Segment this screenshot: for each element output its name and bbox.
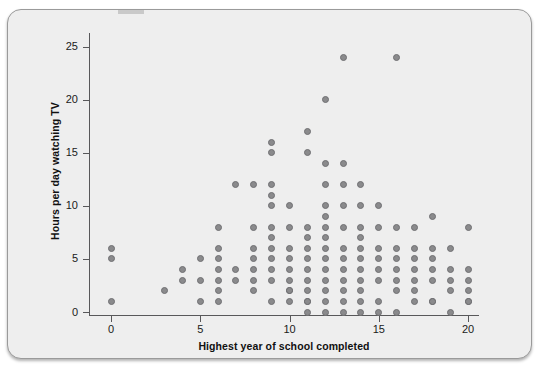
- data-point: [215, 298, 222, 305]
- data-point: [232, 277, 239, 284]
- data-point: [465, 277, 472, 284]
- data-point: [322, 96, 329, 103]
- data-point: [108, 255, 115, 262]
- data-point: [375, 245, 382, 252]
- data-point: [322, 202, 329, 209]
- data-point: [465, 287, 472, 294]
- y-tick-mark: [83, 312, 89, 313]
- data-point: [250, 277, 257, 284]
- data-point: [357, 287, 364, 294]
- data-point: [465, 298, 472, 305]
- x-tick-label: 0: [91, 324, 131, 335]
- data-point: [286, 255, 293, 262]
- data-point: [322, 181, 329, 188]
- data-point: [268, 224, 275, 231]
- data-point: [340, 287, 347, 294]
- data-point: [447, 277, 454, 284]
- data-point: [250, 224, 257, 231]
- data-point: [357, 234, 364, 241]
- data-point: [340, 277, 347, 284]
- data-point: [286, 202, 293, 209]
- data-point: [286, 277, 293, 284]
- data-point: [250, 245, 257, 252]
- data-point: [215, 266, 222, 273]
- data-point: [215, 245, 222, 252]
- data-point: [429, 245, 436, 252]
- data-point: [286, 224, 293, 231]
- data-point: [357, 245, 364, 252]
- data-point: [357, 202, 364, 209]
- data-point: [215, 287, 222, 294]
- data-point: [340, 298, 347, 305]
- data-point: [429, 266, 436, 273]
- data-point: [268, 139, 275, 146]
- y-tick-mark: [83, 153, 89, 154]
- data-point: [411, 287, 418, 294]
- data-point: [393, 255, 400, 262]
- x-tick-mark: [200, 316, 201, 322]
- data-point: [322, 255, 329, 262]
- y-axis-line: [89, 33, 90, 316]
- data-point: [197, 277, 204, 284]
- data-point: [465, 224, 472, 231]
- y-tick-mark: [83, 206, 89, 207]
- data-point: [268, 277, 275, 284]
- data-point: [393, 266, 400, 273]
- data-point: [447, 245, 454, 252]
- data-point: [375, 298, 382, 305]
- data-point: [447, 266, 454, 273]
- data-point: [375, 202, 382, 209]
- y-tick-mark: [83, 47, 89, 48]
- data-point: [322, 245, 329, 252]
- data-point: [429, 213, 436, 220]
- data-point: [393, 54, 400, 61]
- data-point: [304, 234, 311, 241]
- data-point: [411, 277, 418, 284]
- data-point: [411, 255, 418, 262]
- data-point: [268, 192, 275, 199]
- data-point: [179, 266, 186, 273]
- data-point: [250, 181, 257, 188]
- data-point: [322, 309, 329, 316]
- data-point: [268, 202, 275, 209]
- data-point: [357, 309, 364, 316]
- data-point: [465, 266, 472, 273]
- x-tick-label: 5: [180, 324, 220, 335]
- figure-card: 0510152025 05101520 Hours per day watchi…: [7, 9, 532, 359]
- data-point: [447, 309, 454, 316]
- data-point: [340, 309, 347, 316]
- data-point: [304, 309, 311, 316]
- data-point: [322, 277, 329, 284]
- data-point: [340, 245, 347, 252]
- data-point: [447, 287, 454, 294]
- data-point: [268, 245, 275, 252]
- data-point: [268, 181, 275, 188]
- data-point: [357, 224, 364, 231]
- data-point: [393, 224, 400, 231]
- data-point: [357, 266, 364, 273]
- y-tick-label: 0: [38, 307, 78, 318]
- data-point: [215, 277, 222, 284]
- data-point: [411, 245, 418, 252]
- data-point: [429, 298, 436, 305]
- x-tick-mark: [290, 316, 291, 322]
- data-point: [286, 266, 293, 273]
- data-point: [108, 298, 115, 305]
- x-tick-label: 20: [448, 324, 488, 335]
- data-point: [340, 266, 347, 273]
- data-point: [250, 266, 257, 273]
- data-point: [393, 309, 400, 316]
- x-tick-mark: [111, 316, 112, 322]
- data-point: [286, 245, 293, 252]
- data-point: [340, 255, 347, 262]
- data-point: [411, 224, 418, 231]
- data-point: [322, 224, 329, 231]
- data-point: [322, 213, 329, 220]
- data-point: [357, 277, 364, 284]
- data-point: [429, 255, 436, 262]
- data-point: [268, 255, 275, 262]
- data-point: [322, 234, 329, 241]
- data-point: [322, 160, 329, 167]
- data-point: [357, 255, 364, 262]
- data-point: [375, 266, 382, 273]
